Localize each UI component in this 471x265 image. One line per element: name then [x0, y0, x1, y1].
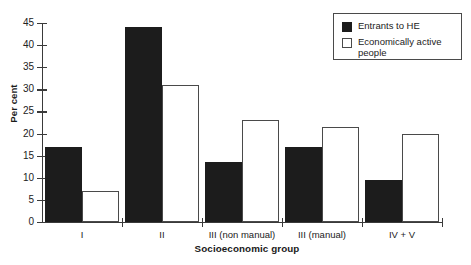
legend-swatch-light-icon [342, 38, 352, 48]
bar [285, 147, 322, 222]
x-category-label: IV + V [362, 229, 442, 240]
y-tick-label: 20 [4, 129, 34, 139]
bar [242, 120, 279, 222]
legend-item-economically-active: Economically active people [342, 37, 441, 58]
x-axis-title: Socioeconomic group [42, 243, 452, 254]
y-tick [37, 45, 47, 46]
y-axis-line [42, 23, 43, 222]
y-tick-label: 35 [4, 62, 34, 72]
y-tick-label: 30 [4, 84, 34, 94]
legend-label: Economically active people [358, 37, 441, 58]
x-tick [282, 218, 283, 227]
bar [365, 180, 402, 222]
x-category-label: III (manual) [282, 229, 362, 240]
y-tick-label: 15 [4, 151, 34, 161]
legend-swatch-dark-icon [342, 22, 352, 32]
x-tick [122, 218, 123, 227]
legend-item-entrants: Entrants to HE [342, 21, 420, 32]
y-tick-label: 45 [4, 18, 34, 28]
bar [82, 191, 119, 222]
y-tick-label: 25 [4, 106, 34, 116]
bar [322, 127, 359, 222]
y-tick-label: 0 [4, 217, 34, 227]
y-tick-label: 40 [4, 40, 34, 50]
x-tick [442, 218, 443, 227]
x-category-label: II [122, 229, 202, 240]
y-tick-label: 5 [4, 195, 34, 205]
y-tick [37, 222, 47, 223]
y-tick [37, 67, 47, 68]
x-tick [362, 218, 363, 227]
bar [205, 162, 242, 222]
bar [45, 147, 82, 222]
bar-chart: Per cent 051015202530354045 IIIIII (non … [0, 0, 471, 265]
bar [162, 85, 199, 222]
y-tick [37, 134, 47, 135]
y-tick [37, 23, 47, 24]
legend: Entrants to HE Economically active peopl… [333, 13, 462, 60]
bar [125, 27, 162, 222]
x-category-label: I [42, 229, 122, 240]
y-tick-label: 10 [4, 173, 34, 183]
x-category-label: III (non manual) [202, 229, 282, 240]
y-tick [37, 89, 47, 90]
bar [402, 134, 439, 222]
y-tick [37, 111, 47, 112]
x-axis-line [42, 222, 442, 223]
legend-label: Entrants to HE [358, 21, 420, 32]
x-tick [202, 218, 203, 227]
